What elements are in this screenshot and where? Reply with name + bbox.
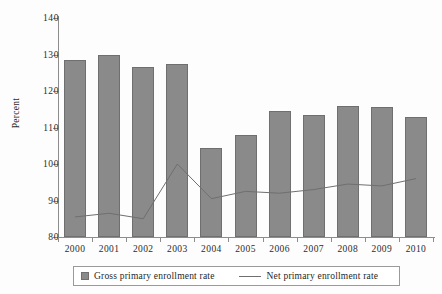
line-swatch-icon xyxy=(239,276,261,277)
bar-2009 xyxy=(371,107,393,237)
y-tick-label-row: 120 xyxy=(0,86,59,96)
y-tick-label: 80 xyxy=(13,232,59,242)
y-tick-label: 120 xyxy=(13,86,59,96)
bar-2007 xyxy=(303,115,325,237)
x-axis-line xyxy=(56,237,435,238)
x-tick-mark xyxy=(126,237,127,242)
legend-label-net: Net primary enrollment rate xyxy=(267,271,379,281)
x-tick-mark xyxy=(194,237,195,242)
y-tick-label: 140 xyxy=(13,13,59,23)
bar-2000 xyxy=(64,60,86,237)
bar-2006 xyxy=(269,111,291,237)
bar-2010 xyxy=(405,117,427,237)
x-tick-mark xyxy=(92,237,93,242)
bar-2001 xyxy=(98,55,120,238)
bar-2005 xyxy=(235,135,257,237)
x-tick-mark xyxy=(297,237,298,242)
x-tick-mark xyxy=(263,237,264,242)
x-tick-mark xyxy=(365,237,366,242)
y-tick-label: 130 xyxy=(13,50,59,60)
y-tick-label: 90 xyxy=(13,196,59,206)
x-tick-label-2010: 2010 xyxy=(396,244,436,254)
y-tick-label-row: 90 xyxy=(0,196,59,206)
y-tick-label-row: 80 xyxy=(0,232,59,242)
legend-item-gross: Gross primary enrollment rate xyxy=(81,271,215,281)
bar-2008 xyxy=(337,106,359,237)
legend-item-net: Net primary enrollment rate xyxy=(239,271,379,281)
bar-2004 xyxy=(200,148,222,237)
x-tick-mark xyxy=(228,237,229,242)
x-tick-mark xyxy=(58,237,59,242)
bar-2002 xyxy=(132,67,154,237)
y-tick-label: 100 xyxy=(13,159,59,169)
legend-label-gross: Gross primary enrollment rate xyxy=(94,271,215,281)
x-tick-mark xyxy=(331,237,332,242)
y-tick-label: 110 xyxy=(13,123,59,133)
enrollment-rate-chart: Percent 1401301201101009080 200020012002… xyxy=(0,0,442,294)
x-tick-mark xyxy=(433,237,434,242)
x-tick-mark xyxy=(160,237,161,242)
bar-swatch-icon xyxy=(81,272,89,280)
y-tick-label-row: 140 xyxy=(0,13,59,23)
chart-legend: Gross primary enrollment rate Net primar… xyxy=(73,266,400,286)
y-tick-label-row: 130 xyxy=(0,50,59,60)
bar-2003 xyxy=(166,64,188,237)
y-tick-label-row: 100 xyxy=(0,159,59,169)
x-tick-mark xyxy=(399,237,400,242)
y-tick-label-row: 110 xyxy=(0,123,59,133)
